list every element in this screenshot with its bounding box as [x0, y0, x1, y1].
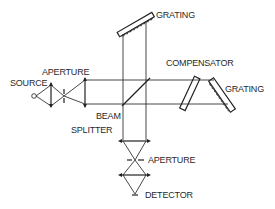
- input-lens-icon: [49, 82, 53, 108]
- output-lens-2-icon: [118, 173, 151, 177]
- grating-top-icon: [117, 12, 155, 37]
- optical-diagram: SOURCE APERTURE GRATING COMPENSATOR GRAT…: [0, 0, 275, 209]
- grating-right-label: GRATING: [225, 84, 264, 94]
- source-label: SOURCE: [10, 78, 47, 88]
- splitter-label: SPLITTER: [71, 125, 112, 135]
- output-rays: [123, 141, 146, 194]
- grating-top-label: GRATING: [156, 10, 195, 20]
- compensator-label: COMPENSATOR: [166, 58, 233, 68]
- compensator-icon: [180, 76, 200, 110]
- horizontal-beams: [85, 80, 228, 104]
- input-aperture-label: APERTURE: [42, 67, 89, 77]
- grating-right-icon: [208, 78, 236, 113]
- detector-label: DETECTOR: [145, 190, 193, 200]
- output-aperture-label: APERTURE: [148, 155, 195, 165]
- source-icon: [32, 94, 37, 99]
- diagram-lines: [0, 0, 275, 209]
- beam-label: BEAM: [96, 111, 121, 121]
- vertical-beams: [123, 22, 146, 140]
